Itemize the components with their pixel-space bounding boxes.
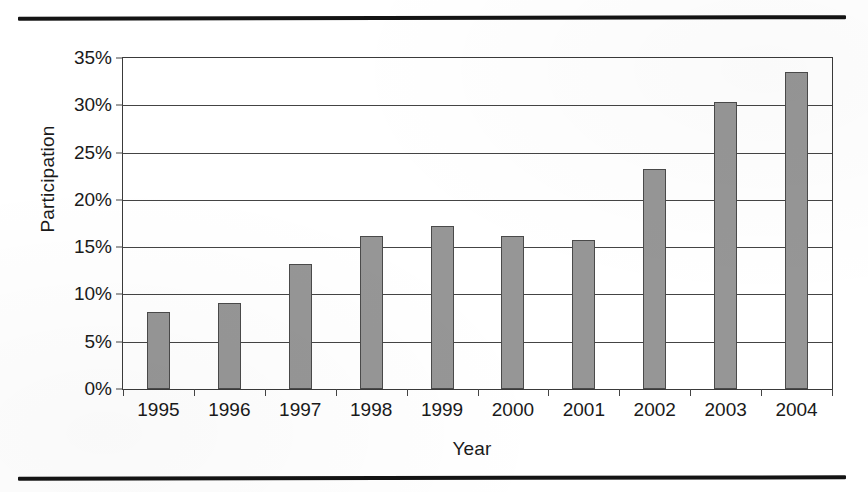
y-tick-label: 0% — [2, 378, 123, 400]
bottom-horizontal-rule — [18, 475, 846, 480]
bar-2004 — [785, 72, 808, 389]
bar-2002 — [643, 169, 666, 389]
bar-slot — [478, 58, 549, 389]
y-tick-label: 15% — [2, 236, 123, 258]
bar-slot — [407, 58, 478, 389]
bar-slot — [761, 58, 832, 389]
x-tick-mark — [478, 389, 479, 396]
y-tick-label: 35% — [2, 47, 123, 69]
x-tick-mark — [761, 389, 762, 396]
bar-slot — [194, 58, 265, 389]
x-tick-mark — [407, 389, 408, 396]
bar-2003 — [714, 102, 737, 389]
y-tick-label: 20% — [2, 189, 123, 211]
x-tick-mark — [690, 389, 691, 396]
y-tick-label: 25% — [2, 142, 123, 164]
bar-slot — [548, 58, 619, 389]
bar-2001 — [572, 240, 595, 389]
bar-1999 — [431, 226, 454, 389]
x-tick-mark — [194, 389, 195, 396]
x-tick-label-1999: 1999 — [421, 399, 463, 421]
x-tick-label-2002: 2002 — [634, 399, 676, 421]
bar-2000 — [501, 236, 524, 389]
x-tick-label-1998: 1998 — [350, 399, 392, 421]
bar-1997 — [289, 264, 312, 389]
bar-slot — [619, 58, 690, 389]
y-tick-label: 10% — [2, 283, 123, 305]
bar-1995 — [147, 312, 170, 389]
bar-slot — [690, 58, 761, 389]
bar-1998 — [360, 236, 383, 389]
x-tick-label-2003: 2003 — [705, 399, 747, 421]
x-tick-mark — [548, 389, 549, 396]
bar-1996 — [218, 303, 241, 389]
x-tick-label-1995: 1995 — [137, 399, 179, 421]
x-tick-mark — [619, 389, 620, 396]
bar-chart-figure: Participation 0%5%10%15%20%25%30%35% 199… — [0, 0, 868, 492]
x-tick-label-2004: 2004 — [775, 399, 817, 421]
x-axis-title: Year — [110, 438, 834, 460]
x-tick-label-2001: 2001 — [563, 399, 605, 421]
x-tick-mark — [265, 389, 266, 396]
bar-slot — [123, 58, 194, 389]
x-tick-mark — [123, 389, 124, 396]
x-tick-label-2000: 2000 — [492, 399, 534, 421]
x-tick-label-1996: 1996 — [208, 399, 250, 421]
bar-series — [123, 58, 832, 389]
plot-area: 0%5%10%15%20%25%30%35% 19951996199719981… — [122, 57, 833, 390]
x-tick-label-1997: 1997 — [279, 399, 321, 421]
y-tick-label: 5% — [2, 331, 123, 353]
bar-slot — [336, 58, 407, 389]
bar-slot — [265, 58, 336, 389]
y-tick-label: 30% — [2, 94, 123, 116]
x-tick-mark — [832, 389, 833, 396]
x-tick-mark — [336, 389, 337, 396]
top-horizontal-rule — [18, 15, 846, 21]
